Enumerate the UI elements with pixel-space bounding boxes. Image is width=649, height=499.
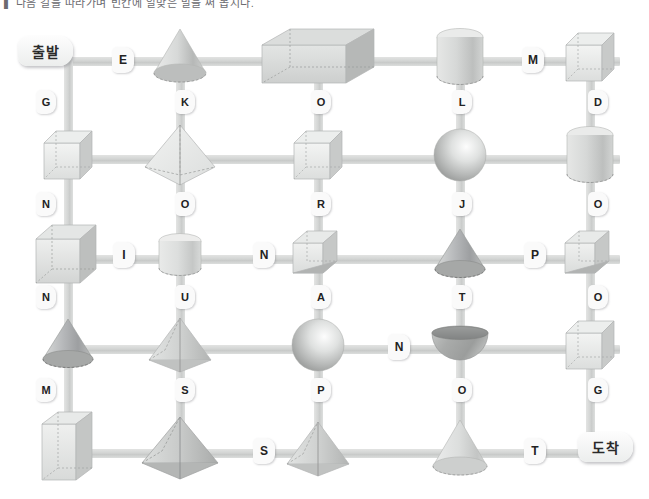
- letter-chip-v-3-3[interactable]: A: [311, 285, 331, 309]
- chip-letter: I: [122, 248, 125, 262]
- chip-letter: N: [42, 291, 50, 303]
- letter-chip-v-1-2[interactable]: K: [175, 90, 195, 114]
- letter-chip-h-r5-1[interactable]: S: [253, 438, 275, 464]
- letter-chip-v-4-4[interactable]: O: [452, 378, 472, 402]
- shape-sphere-r2c4: [431, 126, 489, 184]
- letter-chip-v-3-4[interactable]: T: [452, 285, 472, 309]
- letter-chip-v-1-3[interactable]: O: [311, 90, 331, 114]
- shape-cylinder-r2c5: [562, 124, 618, 186]
- shape-triangular-prism-r3c5: [561, 227, 619, 283]
- letter-chip-v-2-2[interactable]: O: [175, 192, 195, 216]
- chip-letter: M: [41, 384, 50, 396]
- chip-letter: N: [395, 340, 404, 354]
- chip-letter: T: [459, 291, 466, 303]
- letter-chip-h-r1-1[interactable]: E: [112, 47, 134, 73]
- shape-rectangular-prism-r5c1: [38, 408, 98, 488]
- start-label: 출발: [32, 41, 60, 61]
- shape-square-pyramid-r5c2: [138, 415, 222, 483]
- chip-letter: N: [260, 248, 269, 262]
- shape-cone-r1c2: [148, 27, 212, 87]
- chip-letter: O: [458, 384, 467, 396]
- shape-rectangular-prism-r1c3: [258, 25, 378, 89]
- letter-chip-v-1-5[interactable]: D: [588, 90, 608, 114]
- shape-cube-r1c5: [562, 29, 618, 85]
- end-badge[interactable]: 도착: [578, 432, 633, 462]
- chip-letter: G: [594, 384, 603, 396]
- chip-letter: K: [181, 96, 189, 108]
- letter-chip-v-3-2[interactable]: U: [175, 285, 195, 309]
- letter-chip-h-r4-1[interactable]: N: [388, 334, 410, 360]
- letter-chip-v-3-1[interactable]: N: [36, 285, 56, 309]
- maze-diagram: ▌ 다음 길을 따라가며 빈칸에 알맞은 말을 써 봅시다.: [0, 0, 649, 499]
- letter-chip-h-r1-2[interactable]: M: [522, 47, 544, 73]
- letter-chip-h-r3-1[interactable]: I: [113, 242, 135, 268]
- chip-letter: G: [42, 96, 51, 108]
- letter-chip-v-1-1[interactable]: G: [36, 90, 56, 114]
- shape-cube-r4c5: [562, 317, 618, 373]
- worksheet-instruction-strip: ▌ 다음 길을 따라가며 빈칸에 알맞은 말을 써 봅시다.: [0, 0, 649, 9]
- chip-letter: S: [260, 444, 268, 458]
- shape-square-pyramid-r5c3: [283, 420, 353, 478]
- letter-chip-v-3-5[interactable]: O: [588, 285, 608, 309]
- chip-letter: U: [181, 291, 189, 303]
- shape-cube-r3c1: [32, 221, 104, 289]
- letter-chip-v-2-1[interactable]: N: [36, 192, 56, 216]
- letter-chip-v-2-5[interactable]: O: [588, 192, 608, 216]
- end-label: 도착: [592, 437, 620, 457]
- letter-chip-v-4-5[interactable]: G: [588, 378, 608, 402]
- letter-chip-v-2-4[interactable]: J: [452, 192, 472, 216]
- shape-cube-r2c3: [290, 127, 346, 183]
- chip-letter: O: [594, 198, 603, 210]
- shape-cone-r5c4: [427, 418, 493, 480]
- chip-letter: D: [594, 96, 602, 108]
- shape-triangular-prism-r3c3: [289, 227, 347, 283]
- letter-chip-v-4-1[interactable]: M: [36, 378, 56, 402]
- shape-square-pyramid-r4c2: [145, 316, 215, 374]
- start-badge[interactable]: 출발: [18, 36, 73, 66]
- chip-letter: O: [317, 96, 326, 108]
- shape-sphere-r4c3: [289, 316, 347, 374]
- chip-letter: N: [42, 198, 50, 210]
- chip-letter: M: [528, 53, 538, 67]
- chip-letter: P: [317, 384, 324, 396]
- chip-letter: L: [459, 96, 466, 108]
- chip-letter: P: [531, 248, 539, 262]
- letter-chip-h-r5-2[interactable]: T: [524, 438, 546, 464]
- letter-chip-v-2-3[interactable]: R: [311, 192, 331, 216]
- shape-cylinder-r3c2: [154, 232, 206, 280]
- chip-letter: S: [181, 384, 188, 396]
- letter-chip-h-r3-2[interactable]: N: [253, 242, 275, 268]
- letter-chip-h-r3-3[interactable]: P: [524, 242, 546, 268]
- chip-letter: J: [459, 198, 465, 210]
- shape-cone-r3c4: [430, 227, 490, 283]
- shape-cube-r2c1: [40, 127, 96, 183]
- letter-chip-v-4-3[interactable]: P: [311, 378, 331, 402]
- chip-letter: O: [181, 198, 190, 210]
- chip-letter: E: [119, 53, 127, 67]
- letter-chip-v-4-2[interactable]: S: [175, 378, 195, 402]
- chip-letter: T: [531, 444, 538, 458]
- instruction-text: ▌ 다음 길을 따라가며 빈칸에 알맞은 말을 써 봅시다.: [4, 0, 254, 9]
- chip-letter: A: [317, 291, 325, 303]
- shape-octahedron-r2c2: [141, 123, 219, 187]
- letter-chip-v-1-4[interactable]: L: [452, 90, 472, 114]
- shape-cone-r4c1: [38, 317, 98, 373]
- shape-hemisphere-r4c4: [430, 325, 490, 367]
- chip-letter: R: [317, 198, 325, 210]
- shape-cylinder-r1c4: [432, 26, 488, 88]
- chip-letter: O: [594, 291, 603, 303]
